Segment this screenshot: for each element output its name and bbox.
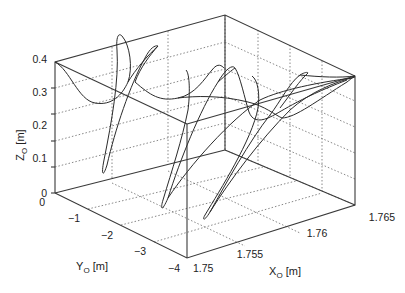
z-tick-4: 0.4: [32, 53, 47, 65]
x-axis: 1.75 1.755 1.76 1.765 XO [m]: [193, 211, 395, 280]
z-tick-1: 0.1: [32, 152, 47, 164]
y-axis: 0 −1 −2 −3 −4 YO [m]: [39, 196, 180, 275]
y-tick-4: −4: [168, 262, 180, 274]
y-tick-3: −3: [134, 245, 146, 257]
z-axis: 0 0.1 0.2 0.3 0.4 ZO [m]: [14, 53, 55, 199]
x-tick-0: 1.75: [193, 262, 214, 274]
z-axis-label: ZO [m]: [14, 129, 29, 160]
3d-line-plot: 0 0.1 0.2 0.3 0.4 ZO [m] 0 −1 −2 −3 −4 Y…: [0, 0, 405, 293]
y-tick-0: 0: [39, 196, 45, 208]
axis-box: [55, 15, 355, 258]
y-axis-label: YO [m]: [76, 260, 108, 275]
y-tick-2: −2: [101, 229, 113, 241]
trajectory-curve: [55, 35, 355, 219]
x-tick-3: 1.765: [369, 211, 395, 223]
z-tick-2: 0.2: [32, 119, 47, 131]
z-tick-3: 0.3: [32, 86, 47, 98]
x-tick-1: 1.755: [237, 248, 263, 260]
x-axis-label: XO [m]: [269, 265, 301, 280]
y-tick-1: −1: [68, 212, 80, 224]
x-tick-2: 1.76: [307, 227, 328, 239]
